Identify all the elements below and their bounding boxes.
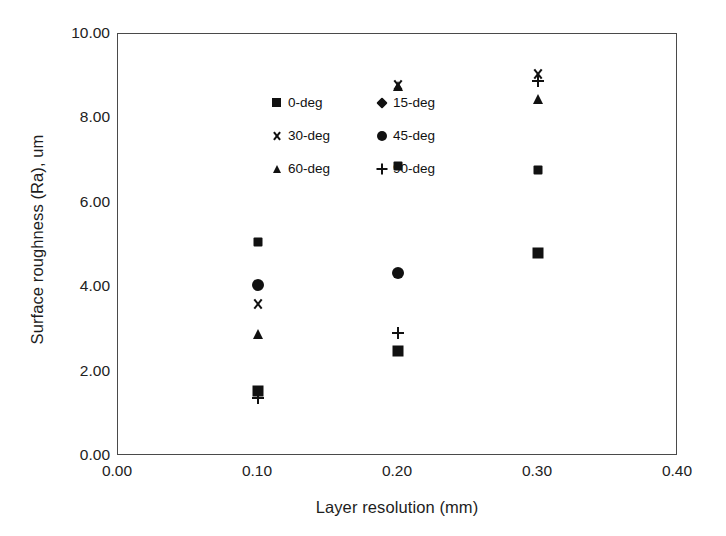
circle-marker-icon: [377, 131, 387, 141]
y-tick-label: 10.00: [52, 24, 110, 42]
y-tick-label: 8.00: [52, 108, 110, 126]
data-point: [252, 279, 264, 291]
legend-item-30-deg[interactable]: 30-deg: [270, 129, 375, 143]
scatter-chart-figure: Surface roughness (Ra), um Layer resolut…: [0, 0, 726, 536]
legend-item-15-deg[interactable]: 15-deg: [375, 96, 485, 110]
x-tick-label: 0.40: [637, 462, 717, 480]
data-point: [392, 327, 404, 339]
y-tick-label: 2.00: [52, 362, 110, 380]
legend-marker-slot: [270, 96, 283, 109]
data-point: [533, 248, 544, 259]
data-point: [393, 345, 404, 356]
legend-item-0-deg[interactable]: 0-deg: [270, 96, 375, 110]
legend-label: 0-deg: [288, 96, 323, 110]
diamond-marker-icon: [376, 97, 387, 108]
x-axis-title: Layer resolution (mm): [117, 498, 677, 517]
legend-marker-slot: [375, 129, 388, 142]
data-point: [534, 165, 543, 174]
legend-label: 60-deg: [288, 162, 330, 176]
legend: 0-deg15-deg30-deg45-deg60-deg90-deg: [270, 86, 485, 185]
legend-item-60-deg[interactable]: 60-deg: [270, 162, 375, 176]
legend-label: 15-deg: [393, 96, 435, 110]
cross-marker-icon: [272, 131, 282, 141]
data-point: [252, 392, 264, 404]
legend-marker-slot: [375, 162, 388, 175]
x-tick-label: 0.00: [77, 462, 157, 480]
data-point: [252, 298, 264, 310]
plus-marker-icon: [376, 163, 387, 174]
legend-item-45-deg[interactable]: 45-deg: [375, 129, 485, 143]
data-point: [532, 75, 544, 87]
y-axis-title: Surface roughness (Ra), um: [28, 40, 47, 440]
y-tick-label: 6.00: [52, 193, 110, 211]
data-point: [392, 267, 404, 279]
legend-marker-slot: [270, 162, 283, 175]
data-point: [253, 329, 263, 339]
data-point: [533, 94, 543, 104]
legend-label: 90-deg: [393, 162, 435, 176]
data-point: [254, 238, 263, 247]
legend-label: 45-deg: [393, 129, 435, 143]
plot-area: 0-deg15-deg30-deg45-deg60-deg90-deg: [117, 33, 677, 455]
legend-marker-slot: [270, 129, 283, 142]
triangle-marker-icon: [273, 165, 281, 173]
x-tick-label: 0.30: [497, 462, 577, 480]
legend-item-90-deg[interactable]: 90-deg: [375, 162, 485, 176]
legend-marker-slot: [375, 96, 388, 109]
x-tick-label: 0.10: [217, 462, 297, 480]
x-tick-label: 0.20: [357, 462, 437, 480]
square-marker-icon: [272, 98, 281, 107]
legend-label: 30-deg: [288, 129, 330, 143]
y-tick-label: 4.00: [52, 277, 110, 295]
